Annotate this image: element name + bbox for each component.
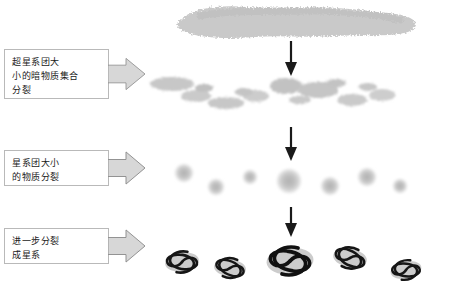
stage-4-spiral-galaxies	[164, 245, 424, 283]
stage-1-filament-cloud	[177, 6, 416, 38]
stage-3-label-group: 进一步分裂 成星系	[4, 228, 146, 264]
stage-3-label: 进一步分裂 成星系	[4, 228, 109, 264]
stage-3-round-clumps	[175, 164, 407, 195]
spiral-galaxy	[331, 245, 368, 272]
right-arrow-icon-1	[108, 57, 146, 91]
down-arrow-2	[285, 127, 297, 161]
spiral-galaxy	[164, 249, 201, 275]
spiral-galaxy	[213, 256, 247, 279]
stage-2-fragment-clouds	[150, 77, 395, 109]
right-arrow-icon-3	[108, 229, 146, 263]
spiral-galaxy	[266, 246, 315, 277]
right-arrow-icon-2	[108, 151, 146, 185]
stage-1-label-group: 超星系团大 小的暗物质集合 分裂	[4, 49, 146, 99]
spiral-galaxy	[389, 257, 424, 282]
stage-1-label: 超星系团大 小的暗物质集合 分裂	[4, 49, 109, 99]
down-arrow-1	[285, 41, 297, 76]
stage-2-label-group: 星系团大小 的物质分裂	[4, 150, 146, 186]
galaxy-formation-diagram: 超星系团大 小的暗物质集合 分裂 星系团大小 的物质分裂 进一步分裂 成星系	[0, 0, 451, 288]
stage-2-label: 星系团大小 的物质分裂	[4, 150, 109, 186]
down-arrow-3	[285, 207, 297, 237]
